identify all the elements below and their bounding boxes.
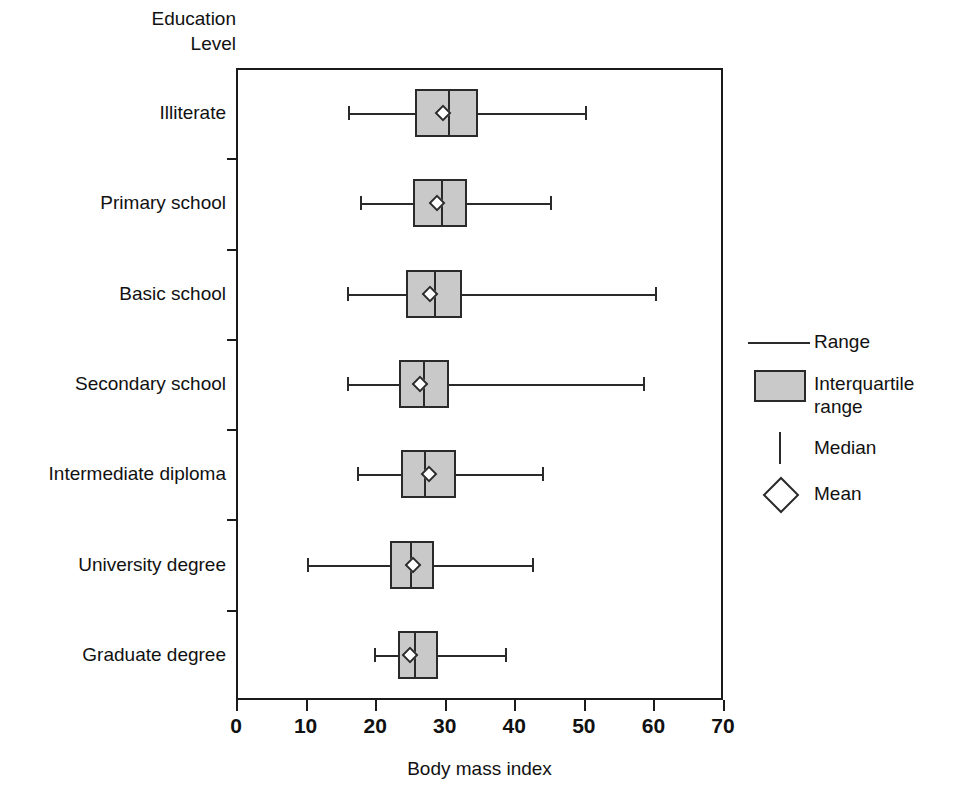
- whisker-left: [360, 203, 413, 205]
- whisker-cap-max: [550, 196, 552, 210]
- x-axis-tick-label: 0: [206, 714, 266, 738]
- whisker-left: [357, 474, 401, 476]
- whisker-cap-max: [532, 558, 534, 572]
- range-line-icon: [748, 326, 814, 360]
- x-axis-tick-label: 20: [345, 714, 405, 738]
- whisker-cap-min: [360, 196, 362, 210]
- legend-label-iqr: Interquartile range: [814, 368, 953, 418]
- whisker-right: [456, 474, 542, 476]
- legend-item-range: Range: [748, 326, 953, 360]
- whisker-cap-min: [357, 467, 359, 481]
- whisker-left: [348, 113, 415, 115]
- whisker-cap-max: [542, 467, 544, 481]
- category-label: Primary school: [0, 192, 226, 214]
- category-label: Graduate degree: [0, 644, 226, 666]
- category-label: Intermediate diploma: [0, 463, 226, 485]
- legend-label-range: Range: [814, 326, 870, 353]
- x-axis-tick: [723, 700, 725, 711]
- x-axis-tick: [375, 700, 377, 711]
- category-label: Basic school: [0, 283, 226, 305]
- category-label: Secondary school: [0, 373, 226, 395]
- x-axis-tick: [306, 700, 308, 711]
- whisker-right: [449, 384, 643, 386]
- x-axis-tick-label: 70: [693, 714, 753, 738]
- median-tick-icon: [748, 432, 814, 470]
- whisker-left: [374, 655, 398, 657]
- category-label: Illiterate: [0, 102, 226, 124]
- whisker-right: [467, 203, 550, 205]
- legend-label-median: Median: [814, 432, 876, 459]
- whisker-right: [478, 113, 584, 115]
- whisker-cap-min: [348, 106, 350, 120]
- y-axis-tick: [227, 249, 237, 251]
- whisker-cap-max: [655, 287, 657, 301]
- whisker-right: [434, 565, 532, 567]
- x-axis-tick: [236, 700, 238, 711]
- whisker-left: [307, 565, 390, 567]
- x-axis-tick-label: 60: [623, 714, 683, 738]
- category-label: University degree: [0, 554, 226, 576]
- box-plot-chart: Education Level IlliteratePrimary school…: [0, 0, 958, 800]
- y-axis-tick: [227, 339, 237, 341]
- y-axis-tick: [227, 610, 237, 612]
- x-axis-tick-label: 50: [554, 714, 614, 738]
- whisker-left: [347, 384, 398, 386]
- x-axis-tick: [653, 700, 655, 711]
- plot-area: [236, 68, 723, 700]
- x-axis-tick: [445, 700, 447, 711]
- legend-item-median: Median: [748, 432, 953, 470]
- x-axis-tick-label: 30: [415, 714, 475, 738]
- category-label-column: IlliteratePrimary schoolBasic schoolSeco…: [0, 68, 226, 700]
- whisker-right: [438, 655, 505, 657]
- legend-item-interquartile-range: Interquartile range: [748, 368, 953, 418]
- iqr-box-icon: [748, 368, 814, 402]
- whisker-cap-min: [347, 377, 349, 391]
- y-axis-title: Education Level: [36, 6, 236, 56]
- x-axis-title: Body mass index: [236, 758, 723, 780]
- legend-label-mean: Mean: [814, 478, 862, 505]
- x-axis-tick: [584, 700, 586, 711]
- whisker-left: [347, 294, 406, 296]
- legend-item-mean: Mean: [748, 478, 953, 512]
- whisker-right: [462, 294, 655, 296]
- whisker-cap-min: [374, 648, 376, 662]
- whisker-cap-min: [347, 287, 349, 301]
- whisker-cap-max: [585, 106, 587, 120]
- y-axis-tick: [227, 519, 237, 521]
- whisker-cap-max: [505, 648, 507, 662]
- y-axis-tick: [227, 429, 237, 431]
- mean-diamond-icon: [748, 478, 814, 512]
- legend: Range Interquartile range Median Mean: [748, 326, 953, 520]
- y-axis-tick: [227, 158, 237, 160]
- x-axis-tick-label: 10: [276, 714, 336, 738]
- whisker-cap-max: [643, 377, 645, 391]
- x-axis-tick-label: 40: [484, 714, 544, 738]
- x-axis-tick: [514, 700, 516, 711]
- whisker-cap-min: [307, 558, 309, 572]
